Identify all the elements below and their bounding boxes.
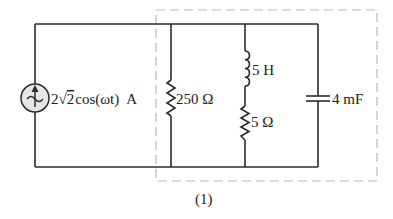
circuit-diagram: 2√2cos(ωt)A 250 Ω 5 H 5 Ω 4 mF (1) (0, 0, 393, 219)
source-label: 2√2cos(ωt)A (51, 91, 137, 108)
resistor-5-icon (241, 106, 249, 140)
inductor-5h-icon (245, 51, 249, 86)
capacitor-icon (306, 96, 330, 101)
resistor-250-icon (167, 80, 175, 116)
resistor-5-label: 5 Ω (251, 114, 273, 130)
subcircuit-label: (1) (195, 191, 213, 208)
capacitor-label: 4 mF (332, 91, 363, 107)
resistor-250-label: 250 Ω (176, 91, 213, 107)
ac-current-source (21, 84, 49, 112)
inductor-label: 5 H (252, 62, 274, 78)
